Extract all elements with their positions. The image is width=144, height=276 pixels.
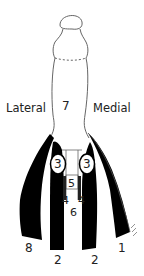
label-8: 8 (25, 241, 33, 255)
label-4-right: 4 (78, 194, 85, 207)
bone-head (60, 16, 82, 30)
anatomical-diagram: Lateral Medial 7 3 3 5 4 4 6 8 2 2 1 (0, 0, 144, 276)
hatch-marks (131, 224, 137, 236)
bone-upper-segment (53, 29, 88, 58)
label-lateral: Lateral (6, 101, 46, 115)
label-3-left: 3 (54, 157, 62, 171)
bone-shaft (50, 58, 89, 138)
label-4-left: 4 (62, 194, 69, 207)
label-6: 6 (70, 206, 77, 219)
label-1: 1 (118, 241, 126, 255)
label-2-left: 2 (54, 253, 62, 267)
tendon-8 (20, 134, 54, 240)
label-medial: Medial (93, 101, 131, 115)
label-3-right: 3 (83, 157, 91, 171)
bone-outline (50, 16, 89, 138)
label-2-right: 2 (91, 253, 99, 267)
label-7: 7 (62, 99, 70, 113)
joint-line (55, 58, 86, 60)
label-5: 5 (68, 177, 75, 190)
